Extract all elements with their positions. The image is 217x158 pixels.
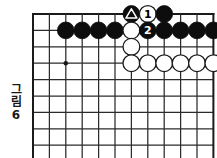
stone-white[interactable] — [156, 55, 173, 72]
white-stone[interactable] — [205, 55, 217, 72]
stone-black[interactable] — [57, 22, 74, 39]
stone-move-number: 2 — [144, 24, 152, 37]
stone-move-number: 1 — [144, 8, 152, 21]
stone-black[interactable] — [90, 22, 107, 39]
white-stone[interactable] — [189, 55, 206, 72]
black-stone[interactable] — [205, 22, 217, 39]
black-stone[interactable] — [90, 22, 107, 39]
white-stone[interactable] — [172, 55, 189, 72]
stone-black[interactable] — [74, 22, 91, 39]
stone-black[interactable] — [123, 6, 140, 23]
white-stone[interactable] — [123, 38, 140, 55]
black-stone[interactable] — [107, 22, 124, 39]
stone-white[interactable] — [189, 55, 206, 72]
black-stone[interactable] — [74, 22, 91, 39]
stone-white[interactable] — [205, 55, 217, 72]
stone-black[interactable]: 2 — [139, 22, 156, 39]
stone-black[interactable] — [107, 22, 124, 39]
white-stone[interactable] — [139, 55, 156, 72]
black-stone[interactable] — [57, 22, 74, 39]
white-stone[interactable] — [123, 22, 140, 39]
caption-number: 6 — [6, 109, 26, 121]
figure-caption: 그 림 6 — [6, 84, 26, 122]
star-points — [64, 61, 69, 66]
go-diagram-figure: 12 — [0, 0, 217, 158]
caption-char-2: 림 — [6, 96, 26, 108]
stone-white[interactable] — [123, 55, 140, 72]
black-stone[interactable] — [172, 22, 189, 39]
stone-black[interactable] — [189, 22, 206, 39]
stone-white[interactable]: 1 — [139, 6, 156, 23]
white-stone[interactable] — [156, 55, 173, 72]
black-stone[interactable] — [189, 22, 206, 39]
star-point — [64, 61, 69, 66]
black-stone[interactable] — [156, 6, 173, 23]
stone-white[interactable] — [172, 55, 189, 72]
stone-white[interactable] — [139, 55, 156, 72]
stone-white[interactable] — [123, 22, 140, 39]
stone-black[interactable] — [205, 22, 217, 39]
stones-layer: 12 — [57, 6, 217, 72]
white-stone[interactable] — [123, 55, 140, 72]
stone-black[interactable] — [156, 22, 173, 39]
stone-black[interactable] — [156, 6, 173, 23]
stone-white[interactable] — [123, 38, 140, 55]
black-stone[interactable] — [156, 22, 173, 39]
go-board: 12 — [0, 0, 217, 158]
stone-black[interactable] — [172, 22, 189, 39]
